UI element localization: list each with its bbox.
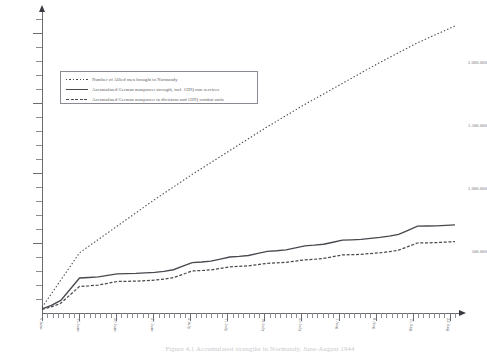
legend-item-german-strength: Accumulated German manpower strength, in… xyxy=(66,85,219,93)
legend-item-label: Number of Allied men brought to Normandy xyxy=(92,77,178,82)
legend-item-label: Accumulated German manpower in divisions… xyxy=(92,97,224,102)
legend-item-german-combat: Accumulated German manpower in divisions… xyxy=(66,95,224,103)
chart-legend: Number of Allied men brought to Normandy… xyxy=(60,71,258,104)
chart-plot-area xyxy=(0,0,487,358)
chart-figure: 2.000.000 1.500.000 1.000.000 500.000 6 … xyxy=(0,0,487,358)
figure-caption: Figure 4.1 Accumulated strengths in Norm… xyxy=(44,344,476,353)
legend-item-allied: Number of Allied men brought to Normandy xyxy=(66,75,178,83)
series-line-german-strength xyxy=(42,225,455,309)
series-line-allied xyxy=(42,26,455,307)
dotted-line-icon xyxy=(66,76,88,82)
solid-line-icon xyxy=(66,86,88,92)
dashed-line-icon xyxy=(66,96,88,102)
legend-item-label: Accumulated German manpower strength, in… xyxy=(92,87,219,92)
